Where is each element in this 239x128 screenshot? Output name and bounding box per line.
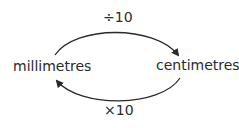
multiply-label: ×10 [104,103,134,117]
divide-label: ÷10 [103,10,133,24]
bottom-arrow-multiply [57,78,180,101]
millimetres-label: millimetres [13,59,91,73]
top-arrow-divide [55,33,178,56]
centimetres-label: centimetres [156,58,239,72]
